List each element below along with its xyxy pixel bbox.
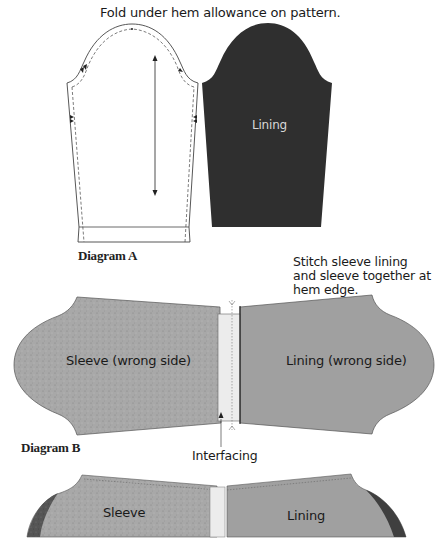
diagram-a-title: Diagram A	[78, 248, 137, 264]
interfacing-label: Interfacing	[192, 448, 257, 463]
diagram-b-stitch-note: Stitch sleeve lining and sleeve together…	[293, 255, 433, 297]
diagram-c-sleeve-label: Sleeve	[103, 505, 145, 520]
diagram-b-lining-label: Lining (wrong side)	[286, 353, 407, 368]
interfacing-strip	[218, 300, 240, 430]
joined-lining-piece	[227, 474, 406, 537]
diagram-c-lining-label: Lining	[287, 508, 325, 523]
interfacing-leader-arrow-icon	[219, 412, 224, 447]
diagram-a-lining-label: Lining	[252, 118, 287, 132]
joined-interfacing-strip	[210, 487, 225, 537]
diagram-a-caption: Fold under hem allowance on pattern.	[100, 5, 341, 20]
sleeve-pattern-piece	[67, 24, 198, 242]
diagram-b-title: Diagram B	[21, 440, 80, 456]
diagram-b-sleeve-label: Sleeve (wrong side)	[66, 353, 191, 368]
